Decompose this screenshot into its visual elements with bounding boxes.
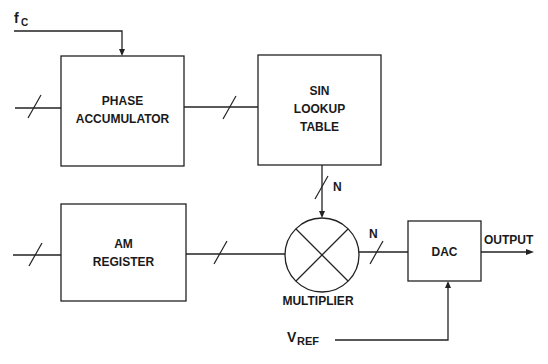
- sin-lookup-block: SIN LOOKUP TABLE: [258, 55, 381, 165]
- vref-label-main: V: [287, 329, 297, 345]
- output-arrow-icon: [526, 249, 534, 255]
- am-input-bus: [13, 243, 61, 266]
- am-register-label-2: REGISTER: [93, 255, 155, 269]
- sin-arrow-icon: [319, 211, 325, 218]
- phase-accumulator-label-1: PHASE: [102, 94, 143, 108]
- output-signal: OUTPUT: [481, 233, 534, 255]
- fc-signal: f C: [14, 10, 125, 56]
- bus-width-label-sin: N: [333, 180, 342, 194]
- vref-label-sub: REF: [297, 335, 319, 347]
- phase-accumulator-label-2: ACCUMULATOR: [76, 112, 170, 126]
- fc-arrow-icon: [119, 49, 125, 56]
- output-label: OUTPUT: [484, 233, 534, 247]
- sin-lookup-label-2: LOOKUP: [294, 102, 345, 116]
- sin-to-multiplier-bus: N: [315, 165, 342, 218]
- vref-arrow-icon: [445, 281, 451, 288]
- am-register-block: AM REGISTER: [61, 204, 186, 301]
- bus-slash-icon: [28, 95, 41, 118]
- dds-block-diagram: f C PHASE ACCUMULATOR SIN LOOKUP TABLE N: [0, 0, 548, 364]
- dac-label: DAC: [432, 245, 458, 259]
- phase-accumulator-box: [61, 56, 184, 166]
- vref-wire: [335, 283, 448, 340]
- phase-to-sin-bus: [184, 96, 258, 119]
- fc-wire: [14, 31, 122, 54]
- am-register-label-1: AM: [114, 237, 133, 251]
- bus-width-label-mult: N: [369, 227, 378, 241]
- am-to-multiplier-bus: [186, 241, 285, 264]
- sin-lookup-label-1: SIN: [309, 84, 329, 98]
- bus-slash-icon: [214, 241, 227, 264]
- multiplier-block: MULTIPLIER: [282, 218, 359, 308]
- phase-accumulator-block: PHASE ACCUMULATOR: [61, 56, 184, 166]
- am-register-box: [61, 204, 186, 301]
- sin-lookup-label-3: TABLE: [300, 120, 339, 134]
- multiplier-to-dac-bus: N: [359, 227, 408, 264]
- phase-input-bus: [15, 95, 61, 118]
- multiplier-label: MULTIPLIER: [282, 294, 353, 308]
- dac-block: DAC: [408, 221, 481, 281]
- fc-label-main: f: [14, 10, 19, 26]
- fc-label-sub: C: [21, 17, 28, 28]
